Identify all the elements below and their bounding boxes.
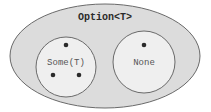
some-label: Some(T) — [47, 58, 85, 68]
variant-some: Some(T) — [36, 37, 96, 97]
none-label: None — [133, 58, 155, 68]
option-type-diagram: Option<T> Some(T) None — [0, 0, 211, 112]
variant-none: None — [113, 31, 175, 93]
none-dot — [142, 43, 147, 48]
some-dot-top — [64, 43, 69, 48]
option-title: Option<T> — [78, 12, 132, 23]
some-dot-right — [77, 73, 82, 78]
some-dot-left — [51, 73, 56, 78]
